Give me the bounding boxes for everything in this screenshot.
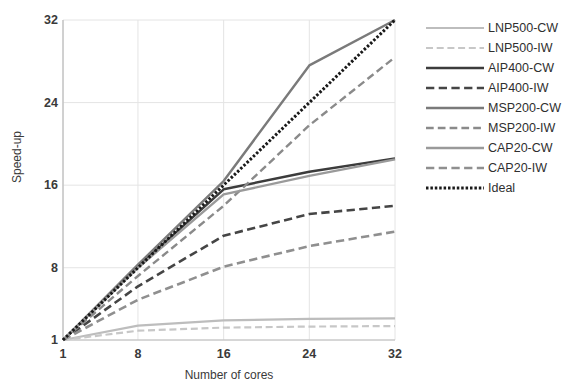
legend-item-aip400-cw[interactable]: AIP400-CW <box>425 58 575 78</box>
series-line-lnp500-iw <box>63 326 395 340</box>
y-tick-label: 8 <box>24 262 58 275</box>
legend-item-cap20-cw[interactable]: CAP20-CW <box>425 138 575 158</box>
legend-line-swatch-icon <box>425 181 485 195</box>
legend-line-swatch-icon <box>425 161 485 175</box>
legend-item-label: LNP500-CW <box>485 22 558 35</box>
legend-item-msp200-cw[interactable]: MSP200-CW <box>425 98 575 118</box>
legend-item-label: MSP200-IW <box>485 122 555 135</box>
legend-item-label: CAP20-IW <box>485 162 547 175</box>
x-axis-ticks: 18162432 <box>63 348 395 366</box>
legend-line-swatch-icon <box>425 121 485 135</box>
legend: LNP500-CWLNP500-IWAIP400-CWAIP400-IWMSP2… <box>425 18 575 198</box>
series-line-cap20-iw <box>63 232 395 340</box>
legend-item-label: CAP20-CW <box>485 142 553 155</box>
x-tick-label: 8 <box>118 348 158 361</box>
legend-item-ideal[interactable]: Ideal <box>425 178 575 198</box>
series-line-lnp500-cw <box>63 318 395 340</box>
y-tick-label: 16 <box>24 179 58 192</box>
legend-item-lnp500-cw[interactable]: LNP500-CW <box>425 18 575 38</box>
y-axis-ticks: 18162432 <box>18 0 58 390</box>
x-tick-label: 16 <box>204 348 244 361</box>
legend-item-aip400-iw[interactable]: AIP400-IW <box>425 78 575 98</box>
y-axis-label: Speed-up <box>10 112 24 202</box>
legend-line-swatch-icon <box>425 21 485 35</box>
plot-area <box>63 20 395 340</box>
x-tick-label: 1 <box>43 348 83 361</box>
y-tick-label: 24 <box>24 97 58 110</box>
legend-item-label: AIP400-IW <box>485 82 548 95</box>
legend-item-label: MSP200-CW <box>485 102 561 115</box>
legend-item-label: LNP500-IW <box>485 42 553 55</box>
series-line-msp200-iw <box>63 57 395 340</box>
x-tick-label: 24 <box>289 348 329 361</box>
legend-line-swatch-icon <box>425 61 485 75</box>
x-tick-label: 32 <box>375 348 415 361</box>
legend-line-swatch-icon <box>425 141 485 155</box>
legend-line-swatch-icon <box>425 101 485 115</box>
legend-item-msp200-iw[interactable]: MSP200-IW <box>425 118 575 138</box>
legend-line-swatch-icon <box>425 41 485 55</box>
plot-svg <box>63 20 395 340</box>
legend-item-cap20-iw[interactable]: CAP20-IW <box>425 158 575 178</box>
speedup-chart-figure: 18162432 18162432 Number of cores Speed-… <box>0 0 578 390</box>
y-tick-label: 32 <box>24 14 58 27</box>
legend-line-swatch-icon <box>425 81 485 95</box>
series-lines <box>63 20 395 340</box>
legend-item-label: Ideal <box>485 182 515 195</box>
y-tick-label: 1 <box>24 334 58 347</box>
x-axis-label: Number of cores <box>63 368 395 382</box>
legend-item-lnp500-iw[interactable]: LNP500-IW <box>425 38 575 58</box>
legend-item-label: AIP400-CW <box>485 62 554 75</box>
